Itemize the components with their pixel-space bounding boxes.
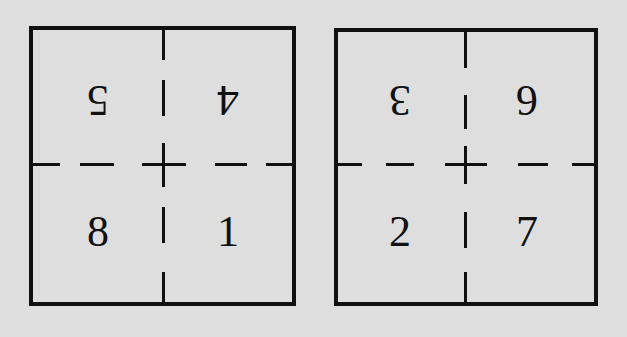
left-top-left-number: 5 [68,78,128,122]
right-horizontal-fold-5 [572,163,598,166]
right-horizontal-fold-4 [518,163,548,166]
left-vertical-fold-mid1 [162,80,165,116]
right-horizontal-fold-1 [336,163,362,166]
left-bottom-left-number: 8 [68,210,128,254]
left-horizontal-fold-3 [142,163,186,166]
right-vertical-fold-bottom [464,272,467,304]
right-vertical-fold-mid2 [464,212,467,248]
left-horizontal-fold-5 [266,163,294,166]
right-top-right-number: 6 [497,78,557,122]
right-horizontal-fold-2 [386,163,414,166]
left-top-right-number: 4 [198,78,258,122]
left-horizontal-fold-1 [32,163,60,166]
right-top-left-number: 3 [370,78,430,122]
left-vertical-fold-top [162,28,165,60]
right-bottom-left-number: 2 [370,210,430,254]
right-vertical-fold-top [464,30,467,68]
left-vertical-fold-mid2 [162,207,165,243]
right-bottom-right-number: 7 [497,210,557,254]
left-bottom-right-number: 1 [198,210,258,254]
left-horizontal-fold-2 [80,163,114,166]
left-horizontal-fold-4 [215,163,247,166]
left-vertical-fold-bottom [162,272,165,304]
right-vertical-fold-mid1 [464,95,467,129]
right-horizontal-fold-3 [445,163,487,166]
